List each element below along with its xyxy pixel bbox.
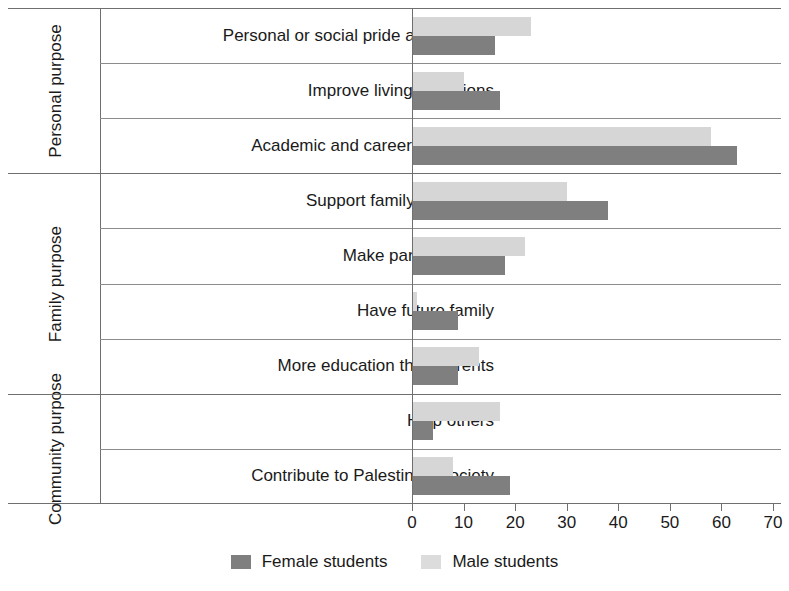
bar-male-students	[412, 457, 453, 476]
bar-pair	[412, 118, 781, 173]
x-axis-tick	[670, 504, 671, 511]
bar-female-students	[412, 36, 495, 55]
bar-female-students	[412, 146, 737, 165]
bar-pair	[412, 339, 781, 394]
x-axis-tick-label: 0	[407, 513, 416, 533]
x-axis-tick	[515, 504, 516, 511]
legend-swatch-female	[231, 555, 251, 569]
bar-pair	[412, 63, 781, 118]
x-axis-tick	[721, 504, 722, 511]
category-row: Have future family	[8, 284, 781, 339]
value-axis-baseline	[412, 8, 413, 504]
bar-male-students	[412, 347, 479, 366]
x-axis-tick	[618, 504, 619, 511]
x-axis: 010203040506070	[8, 504, 781, 544]
legend-item[interactable]: Male students	[421, 552, 558, 572]
x-axis-tick	[773, 504, 774, 511]
bar-female-students	[412, 421, 433, 440]
bar-male-students	[412, 237, 525, 256]
legend-swatch-male	[421, 555, 441, 569]
legend-label: Male students	[452, 552, 558, 572]
x-axis-tick-label: 60	[712, 513, 731, 533]
x-axis-tick	[464, 504, 465, 511]
bar-pair	[412, 284, 781, 339]
bar-female-students	[412, 476, 510, 495]
x-axis-tick	[567, 504, 568, 511]
bar-male-students	[412, 72, 464, 91]
bar-male-students	[412, 402, 500, 421]
bar-female-students	[412, 91, 500, 110]
x-axis-tick-label: 10	[454, 513, 473, 533]
x-axis-tick-label: 40	[609, 513, 628, 533]
grouped-bar-chart: Personal purposeFamily purposeCommunity …	[0, 0, 789, 591]
legend-item[interactable]: Female students	[231, 552, 388, 572]
bar-pair	[412, 394, 781, 449]
legend-label: Female students	[262, 552, 388, 572]
category-row: Improve living conditions	[8, 63, 781, 118]
bar-male-students	[412, 182, 567, 201]
bar-pair	[412, 228, 781, 283]
bar-pair	[412, 173, 781, 228]
chart-legend: Female studentsMale students	[0, 552, 789, 572]
bar-male-students	[412, 127, 711, 146]
bar-pair	[412, 449, 781, 504]
x-axis-tick-label: 70	[764, 513, 783, 533]
category-row: More education than parents	[8, 339, 781, 394]
bar-male-students	[412, 17, 531, 36]
x-axis-tick	[412, 504, 413, 511]
bar-female-students	[412, 311, 458, 330]
bar-female-students	[412, 366, 458, 385]
x-axis-tick-label: 50	[660, 513, 679, 533]
bar-pair	[412, 8, 781, 63]
category-row: Contribute to Palestinian society	[8, 449, 781, 504]
category-row: Make parents proud	[8, 228, 781, 283]
bar-female-students	[412, 201, 608, 220]
x-axis-tick-label: 30	[557, 513, 576, 533]
category-row: Academic and career motivation	[8, 118, 781, 173]
plot-area: Personal purposeFamily purposeCommunity …	[8, 8, 781, 504]
category-row: Help others	[8, 394, 781, 449]
category-row: Personal or social pride and respect	[8, 8, 781, 63]
x-axis-tick-label: 20	[506, 513, 525, 533]
category-row: Support family financially	[8, 173, 781, 228]
bar-female-students	[412, 256, 505, 275]
